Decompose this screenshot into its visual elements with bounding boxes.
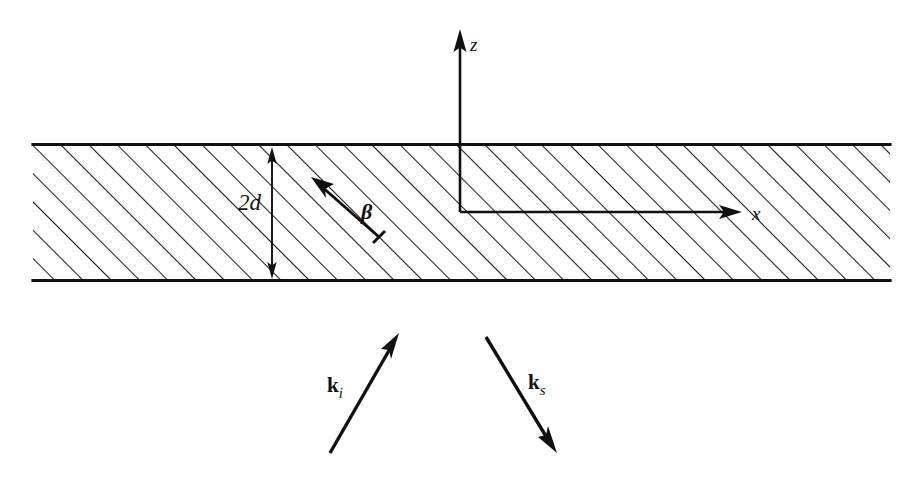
x-axis-label: x — [751, 203, 761, 224]
k-incident-label-subscript: i — [339, 385, 343, 401]
k-incident-label: ki — [327, 373, 343, 401]
k-incident-vector-group: ki — [327, 333, 399, 453]
k-scattered-vector-group: ks — [486, 337, 557, 453]
k-incident-arrowhead — [381, 333, 399, 359]
thickness-label: 2d — [238, 190, 262, 215]
k-scattered-label-base: k — [528, 370, 540, 394]
k-scattered-label: ks — [528, 370, 546, 398]
scattering-geometry-diagram: z x 2d β ki — [0, 0, 919, 479]
z-axis-label: z — [469, 34, 478, 55]
k-incident-label-base: k — [327, 373, 339, 397]
k-scattered-label-subscript: s — [540, 382, 546, 398]
beta-vector-label: β — [360, 199, 373, 224]
figure-root: z x 2d β ki — [0, 0, 919, 479]
